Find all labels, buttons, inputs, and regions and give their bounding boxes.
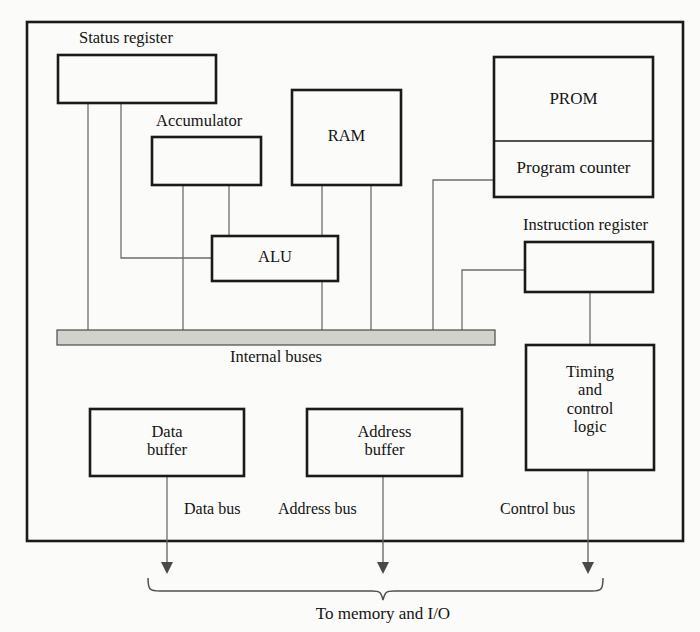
- label-address-buffer: Address buffer: [307, 423, 462, 460]
- arrowhead-control-bus: [582, 562, 594, 574]
- diagram-canvas: Status register Accumulator RAM PROM Pro…: [0, 0, 700, 632]
- label-timing-control-logic: Timing and control logic: [526, 363, 654, 437]
- label-address-bus: Address bus: [278, 500, 357, 518]
- label-prom: PROM: [494, 89, 653, 108]
- block-accumulator: [152, 137, 261, 185]
- block-status-register: [58, 55, 216, 103]
- brace-to-memory-and-io: [148, 578, 603, 600]
- label-ram: RAM: [292, 127, 401, 145]
- label-data-bus: Data bus: [184, 500, 240, 518]
- arrowhead-address-bus: [377, 562, 389, 574]
- internal-bus-bar: [57, 330, 495, 345]
- label-program-counter: Program counter: [494, 158, 653, 177]
- label-alu: ALU: [212, 248, 338, 266]
- wire-instruction-register-to-bus: [462, 270, 525, 331]
- arrowhead-data-bus: [161, 562, 173, 574]
- external-bus-arrowheads: [161, 562, 594, 574]
- caption-to-memory-and-io: To memory and I/O: [203, 604, 563, 623]
- label-internal-buses: Internal buses: [57, 348, 495, 366]
- external-bus-arrows: [167, 541, 588, 570]
- label-accumulator: Accumulator: [156, 112, 242, 130]
- label-status-register: Status register: [79, 29, 173, 47]
- label-instruction-register: Instruction register: [523, 216, 648, 234]
- label-data-buffer: Data buffer: [90, 423, 244, 460]
- block-instruction-register: [525, 242, 653, 292]
- wire-program-counter-to-bus: [433, 180, 494, 331]
- label-control-bus: Control bus: [500, 500, 575, 518]
